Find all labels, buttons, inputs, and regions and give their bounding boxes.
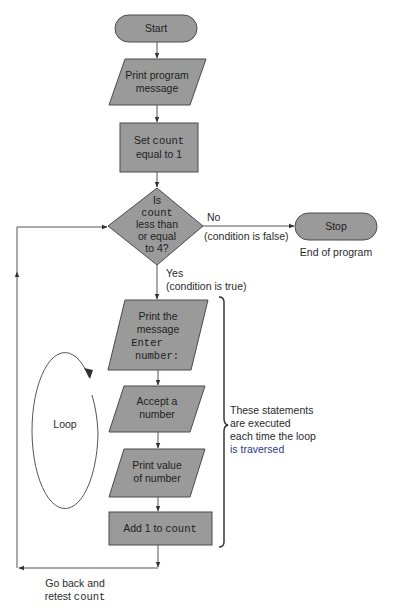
node-text-line: to 4? xyxy=(145,242,169,254)
retest-count-label: retest count xyxy=(45,590,106,603)
node-text-line: Print the xyxy=(138,310,177,322)
stop-label: Stop xyxy=(325,220,347,232)
note-line: are executed xyxy=(230,417,291,429)
note-line: These statements xyxy=(230,404,313,416)
node-text-line: Accept a xyxy=(137,395,178,407)
end-of-program-caption: End of program xyxy=(300,246,373,258)
start-label: Start xyxy=(145,22,167,34)
accept-number-node: Accept a number xyxy=(109,386,205,432)
node-text-line: Print program xyxy=(125,69,189,81)
node-text-line: Set count xyxy=(134,134,184,147)
node-text-line: message xyxy=(136,82,179,94)
print-enter-number-node: Print the message Enter number: xyxy=(108,300,208,370)
node-text-line: message xyxy=(137,323,180,335)
stop-node: Stop xyxy=(295,213,377,240)
node-text-line: equal to 1 xyxy=(136,148,182,160)
loop-cycle-icon xyxy=(32,353,98,509)
note-line: is traversed xyxy=(230,443,284,455)
node-text-line: number: xyxy=(135,350,179,362)
flowchart-diagram: Start Print program message Set count eq… xyxy=(0,0,402,612)
no-label: No xyxy=(207,211,221,223)
note-line: each time the loop xyxy=(230,430,316,442)
loop-label: Loop xyxy=(53,418,77,430)
bracket-note: These statements are executed each time … xyxy=(230,404,316,455)
set-count-node: Set count equal to 1 xyxy=(120,123,198,172)
node-text-line: or equal xyxy=(138,230,176,242)
node-text-line: less than xyxy=(136,218,178,230)
node-text-line: Is xyxy=(153,194,161,206)
yes-label: Yes xyxy=(166,267,183,279)
add-one-node: Add 1 to count xyxy=(109,512,212,545)
condition-true-label: (condition is true) xyxy=(166,280,247,292)
start-node: Start xyxy=(115,15,197,42)
print-program-message-node: Print program message xyxy=(109,59,206,105)
print-value-node: Print value of number xyxy=(109,449,205,497)
decision-node: Is count less than or equal to 4? xyxy=(108,188,203,265)
node-text-line: Print value xyxy=(132,459,182,471)
node-text-line: number xyxy=(139,408,175,420)
node-text-line: Add 1 to count xyxy=(123,522,197,535)
node-text-line: Enter xyxy=(131,337,163,349)
go-back-label: Go back and xyxy=(45,577,105,589)
node-text-line: of number xyxy=(133,472,181,484)
condition-false-label: (condition is false) xyxy=(204,230,289,242)
statements-bracket xyxy=(219,297,228,547)
